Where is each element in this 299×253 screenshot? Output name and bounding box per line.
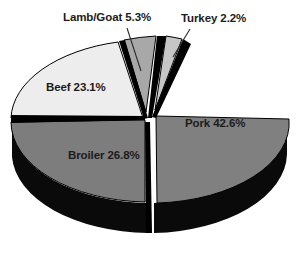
- slice-label-turkey: Turkey 2.2%: [181, 13, 246, 25]
- slice-label-pork: Pork 42.6%: [185, 118, 245, 130]
- separator-pork-broiler: [145, 122, 152, 233]
- pie-chart-canvas: [0, 0, 299, 253]
- slice-label-broiler: Broiler 26.8%: [68, 150, 140, 162]
- slice-label-lamb-goat: Lamb/Goat 5.3%: [63, 12, 151, 24]
- pie-chart-figure: Beef 23.1% Broiler 26.8% Pork 42.6% Lamb…: [0, 0, 299, 253]
- slice-label-beef: Beef 23.1%: [46, 82, 106, 94]
